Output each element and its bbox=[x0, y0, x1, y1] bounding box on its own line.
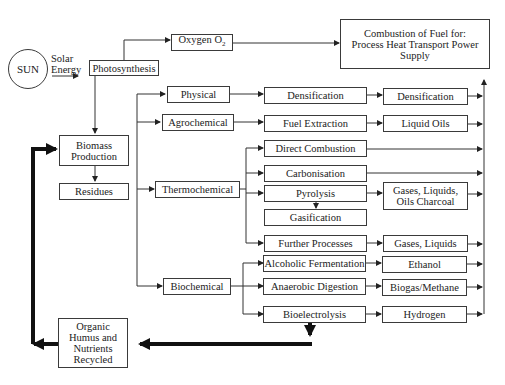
densification-process-node: Densification bbox=[264, 87, 367, 104]
alcoholic-fermentation-node: Alcoholic Fermentation bbox=[263, 255, 366, 272]
oxygen-label: Oxygen O2 bbox=[179, 34, 226, 50]
biochemical-node: Biochemical bbox=[163, 278, 231, 295]
combustion-node: Combustion of Fuel for: Process Heat Tra… bbox=[340, 19, 490, 69]
ethanol-node: Ethanol bbox=[382, 256, 467, 273]
photosynthesis-node: Photosynthesis bbox=[89, 60, 159, 76]
further-processes-node: Further Processes bbox=[264, 235, 367, 252]
organic-recycled-node: Organic Humus and Nutrients Recycled bbox=[58, 318, 128, 368]
gases-liquids-node: Gases, Liquids bbox=[383, 235, 468, 252]
pyrolysis-products-node: Gases, Liquids, Oils Charcoal bbox=[383, 182, 468, 210]
bioelectrolysis-node: Bioelectrolysis bbox=[263, 306, 366, 323]
sun-node: SUN bbox=[8, 49, 48, 89]
agrochemical-node: Agrochemical bbox=[162, 114, 234, 131]
densification-product-node: Densification bbox=[383, 88, 468, 105]
hydrogen-node: Hydrogen bbox=[382, 306, 467, 323]
pyrolysis-node: Pyrolysis bbox=[264, 185, 367, 202]
gasification-node: Gasification bbox=[264, 209, 367, 226]
fuel-extraction-node: Fuel Extraction bbox=[264, 115, 367, 132]
biomass-production-node: Biomass Production bbox=[59, 135, 129, 166]
direct-combustion-node: Direct Combustion bbox=[264, 140, 367, 157]
sun-label: SUN bbox=[17, 63, 39, 75]
oxygen-node: Oxygen O2 bbox=[171, 34, 233, 51]
solar-energy-label: Solar Energy bbox=[51, 53, 81, 75]
carbonisation-node: Carbonisation bbox=[264, 165, 367, 182]
thermochemical-node: Thermochemical bbox=[155, 181, 240, 198]
biogas-methane-node: Biogas/Methane bbox=[382, 279, 467, 296]
physical-node: Physical bbox=[167, 86, 230, 103]
residues-node: Residues bbox=[59, 183, 129, 200]
liquid-oils-node: Liquid Oils bbox=[383, 115, 468, 132]
anaerobic-digestion-node: Anaerobic Digestion bbox=[263, 278, 366, 295]
